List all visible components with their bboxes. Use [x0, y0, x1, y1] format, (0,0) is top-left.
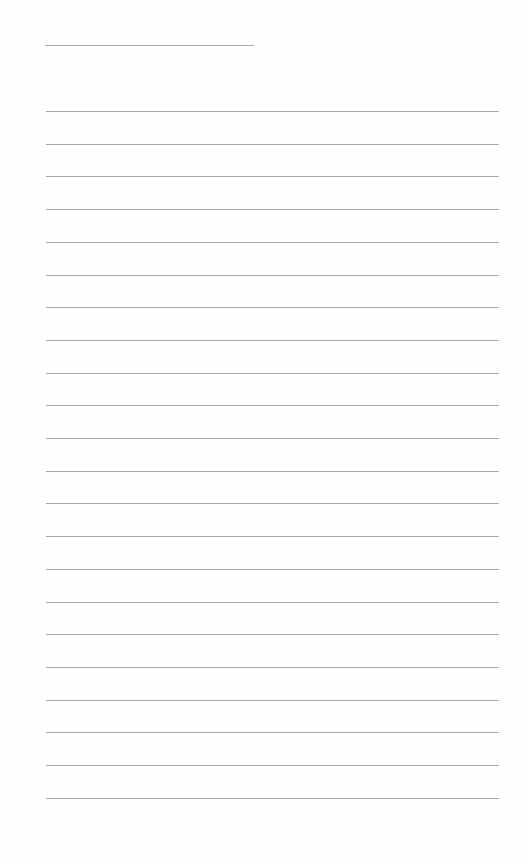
lined-paper-page	[0, 0, 523, 863]
ruled-line	[46, 503, 499, 504]
ruled-line	[46, 471, 499, 472]
ruled-line	[46, 242, 499, 243]
ruled-line	[46, 536, 499, 537]
ruled-line	[46, 373, 499, 374]
ruled-line	[46, 634, 499, 635]
ruled-line	[46, 602, 499, 603]
ruled-line	[46, 765, 499, 766]
ruled-line	[46, 340, 499, 341]
ruled-line	[46, 405, 499, 406]
ruled-line	[46, 144, 499, 145]
ruled-line	[46, 111, 499, 112]
ruled-line	[46, 438, 499, 439]
ruled-line	[46, 667, 499, 668]
ruled-line	[46, 732, 499, 733]
ruled-line	[46, 176, 499, 177]
ruled-line	[46, 275, 499, 276]
ruled-line	[46, 569, 499, 570]
ruled-line	[46, 700, 499, 701]
ruled-line	[46, 307, 499, 308]
ruled-line	[46, 209, 499, 210]
header-name-line	[45, 45, 254, 46]
ruled-line	[46, 798, 499, 799]
